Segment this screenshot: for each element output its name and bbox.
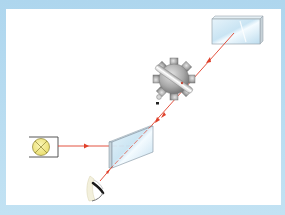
mirror-icon (212, 16, 263, 44)
light-beam-observer (100, 167, 112, 181)
lamp-icon (29, 137, 58, 157)
half-silvered-mirror-icon (109, 125, 153, 168)
fizeau-diagram (0, 0, 285, 215)
gear-icon (153, 58, 195, 105)
